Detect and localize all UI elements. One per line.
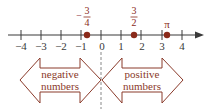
negative-label-line2: numbers	[41, 80, 79, 92]
numerator: 3	[85, 5, 90, 16]
tick-label: −2	[55, 40, 67, 52]
axis-arrowhead-icon	[195, 32, 204, 39]
point-three-halves	[131, 32, 137, 38]
tick-label: −3	[35, 40, 47, 52]
positive-label-line1: positive	[125, 68, 160, 80]
tick-label: −4	[15, 40, 27, 52]
negative-label-line1: negative	[41, 68, 78, 80]
tick-label: 3	[159, 40, 165, 52]
label-pi: π	[164, 18, 170, 30]
tick-label: −1	[75, 40, 87, 52]
tick-label: 0	[99, 40, 105, 52]
point-pi	[164, 32, 170, 38]
number-line-diagram: −4 −3 −2 −1 0 1 2 3 4 − 3 4 3 2 π negati…	[0, 0, 209, 109]
denominator: 4	[85, 17, 90, 28]
label-three-halves: 3 2	[131, 5, 138, 28]
denominator: 2	[132, 17, 137, 28]
tick-label: 4	[179, 40, 185, 52]
label-negative-three-quarters: − 3 4	[76, 5, 90, 28]
numerator: 3	[132, 5, 137, 16]
minus-sign: −	[76, 10, 82, 21]
tick-label: 1	[118, 40, 124, 52]
tick-label: 2	[139, 40, 145, 52]
positive-label-line2: numbers	[123, 80, 161, 92]
point-negative-three-quarters	[84, 32, 90, 38]
